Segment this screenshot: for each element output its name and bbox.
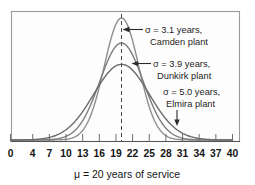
dunkirk-sigma-label: σ = 3.9 years, — [153, 59, 210, 69]
tick-label-4: 4 — [30, 148, 36, 159]
tick-label-37: 37 — [210, 148, 222, 159]
elmira-sigma-label: σ = 5.0 years, — [163, 87, 220, 97]
tick-label-31: 31 — [177, 148, 189, 159]
tick-label-10: 10 — [60, 148, 72, 159]
tick-label-25: 25 — [144, 148, 156, 159]
tick-label-16: 16 — [94, 148, 106, 159]
tick-label-28: 28 — [160, 148, 172, 159]
camden-sigma-label: σ = 3.1 years, — [145, 25, 202, 35]
normal-distribution-chart-figure: 0471013161922252831343740 σ = 3.1 years,… — [0, 0, 255, 185]
dunkirk-plant-label: Dunkirk plant — [157, 71, 212, 81]
tick-label-19: 19 — [110, 148, 122, 159]
tick-label-40: 40 — [227, 148, 239, 159]
chart-canvas: 0471013161922252831343740 σ = 3.1 years,… — [0, 0, 255, 185]
x-axis-title: μ = 20 years of service — [74, 168, 180, 180]
tick-label-22: 22 — [127, 148, 139, 159]
camden-plant-label: Camden plant — [150, 37, 208, 47]
x-axis-tick-labels: 0471013161922252831343740 — [8, 148, 239, 159]
tick-label-7: 7 — [46, 148, 52, 159]
tick-label-0: 0 — [8, 148, 14, 159]
tick-label-13: 13 — [77, 148, 89, 159]
tick-label-34: 34 — [193, 148, 205, 159]
elmira-plant-label: Elmira plant — [166, 99, 216, 109]
